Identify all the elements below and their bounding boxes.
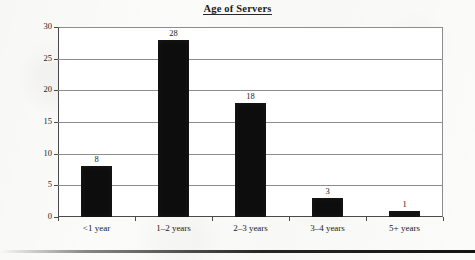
- x-axis-tick-mark: [135, 217, 136, 221]
- bar-value-label: 3: [308, 186, 348, 196]
- bar: [389, 211, 420, 217]
- x-axis-tick-mark: [443, 217, 444, 221]
- x-axis-tick-label: <1 year: [57, 223, 137, 233]
- y-axis-tick-label: 30: [6, 21, 52, 31]
- x-axis-tick-label: 1–2 years: [134, 223, 214, 233]
- y-axis-tick-label: 25: [6, 53, 52, 63]
- x-axis-tick-mark: [212, 217, 213, 221]
- y-axis-tick-mark: [54, 59, 58, 60]
- y-axis-tick-mark: [54, 90, 58, 91]
- y-axis-tick-label: 5: [6, 179, 52, 189]
- y-axis-tick-label: 10: [6, 148, 52, 158]
- bar: [158, 40, 189, 217]
- chart-title-text: Age of Servers: [203, 3, 271, 15]
- bar-value-label: 18: [231, 91, 271, 101]
- bar: [312, 198, 343, 217]
- gridline: [58, 59, 443, 60]
- chart-page: Age of Servers 051015202530 8281831 <1 y…: [0, 0, 475, 260]
- bar: [235, 103, 266, 217]
- y-axis-tick-label: 15: [6, 116, 52, 126]
- y-axis-tick-mark: [54, 185, 58, 186]
- chart-title: Age of Servers: [0, 3, 475, 14]
- x-axis-tick-mark: [366, 217, 367, 221]
- x-axis-tick-mark: [58, 217, 59, 221]
- x-axis-tick-label: 5+ years: [365, 223, 445, 233]
- page-bottom-rule: [0, 250, 475, 253]
- bar-value-label: 28: [154, 28, 194, 38]
- y-axis-tick-mark: [54, 154, 58, 155]
- bar-value-label: 8: [77, 154, 117, 164]
- y-axis-tick-label: 0: [6, 211, 52, 221]
- bar-value-label: 1: [385, 199, 425, 209]
- x-axis-tick-mark: [289, 217, 290, 221]
- y-axis-tick-mark: [54, 122, 58, 123]
- y-axis-tick-mark: [54, 27, 58, 28]
- bar: [81, 166, 112, 217]
- x-axis-tick-label: 2–3 years: [211, 223, 291, 233]
- y-axis-tick-label: 20: [6, 84, 52, 94]
- x-axis-tick-label: 3–4 years: [288, 223, 368, 233]
